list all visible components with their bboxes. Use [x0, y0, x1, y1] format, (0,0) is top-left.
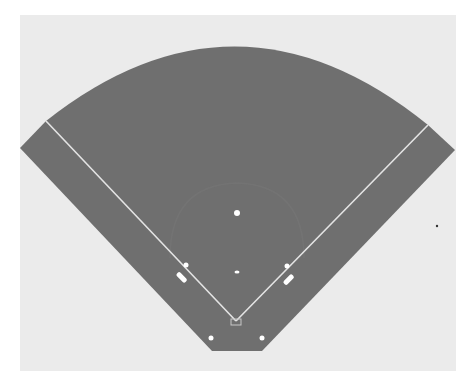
baseball-field-diagram	[0, 0, 470, 383]
on-deck-circle-right	[260, 336, 265, 341]
pitchers-mound-marker	[235, 271, 240, 274]
second-base-marker	[234, 210, 240, 216]
on-deck-circle-left	[209, 336, 214, 341]
outfield-grass	[20, 46, 455, 351]
third-base-marker	[184, 263, 189, 268]
stray-dot	[436, 225, 438, 227]
first-base-marker	[285, 264, 290, 269]
